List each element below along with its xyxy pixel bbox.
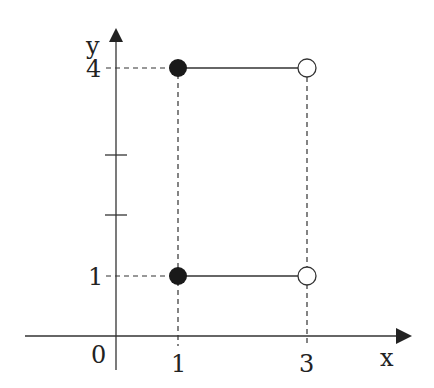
closed-point-1-1 (169, 267, 187, 285)
y-axis-arrow-icon (109, 28, 123, 42)
y-tick-label-4: 4 (86, 55, 101, 83)
x-tick-label-3: 3 (299, 350, 314, 378)
graph-svg: y 4 1 0 1 3 x (0, 0, 434, 388)
x-axis-label: x (380, 344, 394, 372)
y-tick-label-1: 1 (88, 263, 103, 291)
x-axis-arrow-icon (396, 328, 412, 344)
closed-point-1-4 (169, 59, 187, 77)
open-point-3-4 (298, 59, 316, 77)
origin-label: 0 (91, 341, 106, 369)
step-function-graph: y 4 1 0 1 3 x (0, 0, 434, 388)
open-point-3-1 (298, 267, 316, 285)
x-tick-label-1: 1 (171, 350, 186, 378)
